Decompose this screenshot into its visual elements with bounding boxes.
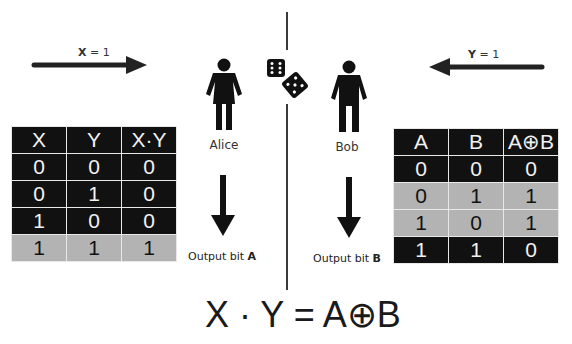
table-cell: 0 bbox=[122, 181, 177, 208]
equation-rhs: A⊕B bbox=[323, 294, 401, 335]
alice-label: Alice bbox=[194, 138, 254, 152]
table-cell: 0 bbox=[12, 181, 67, 208]
table-cell: 0 bbox=[394, 183, 449, 210]
table-header-row: A B A⊕B bbox=[394, 129, 559, 156]
table-cell: 0 bbox=[12, 154, 67, 181]
center-divider-top bbox=[286, 12, 288, 50]
table-cell: 0 bbox=[449, 156, 504, 183]
table-header-row: X Y X·Y bbox=[12, 127, 177, 154]
and-truth-table: X Y X·Y 0 0 0 0 1 0 1 0 0 1 1 1 bbox=[11, 126, 177, 262]
table-cell: 0 bbox=[67, 208, 122, 235]
header-cell: X bbox=[12, 127, 67, 154]
xor-truth-table: A B A⊕B 0 0 0 0 1 1 1 0 1 1 1 0 bbox=[393, 128, 559, 264]
output-bit-b-label: Output bit B bbox=[313, 252, 381, 265]
table-cell: 0 bbox=[449, 210, 504, 237]
output-bit-a-label: Output bit A bbox=[188, 250, 256, 263]
output-text: Output bit bbox=[313, 252, 373, 265]
table-row-highlight: 0 1 1 bbox=[394, 183, 559, 210]
bob-label: Bob bbox=[317, 140, 377, 154]
equation-equals: = bbox=[284, 294, 323, 335]
table-cell: 0 bbox=[67, 154, 122, 181]
table-cell: 1 bbox=[449, 183, 504, 210]
table-row: 0 1 0 bbox=[12, 181, 177, 208]
arrow-down-icon-bob bbox=[336, 177, 362, 239]
header-cell: B bbox=[449, 129, 504, 156]
arrow-right-icon bbox=[30, 54, 150, 76]
table-cell: 1 bbox=[67, 181, 122, 208]
table-cell: 1 bbox=[394, 237, 449, 264]
table-row-highlight: 1 1 1 bbox=[12, 235, 177, 262]
equation: X · Y = A⊕B bbox=[205, 294, 401, 336]
female-person-icon bbox=[204, 58, 244, 132]
table-cell: 1 bbox=[122, 235, 177, 262]
table-cell: 0 bbox=[122, 208, 177, 235]
table-cell: 1 bbox=[449, 237, 504, 264]
table-cell: 0 bbox=[504, 156, 559, 183]
table-cell: 1 bbox=[504, 183, 559, 210]
output-text: Output bit bbox=[188, 250, 248, 263]
output-bit: B bbox=[373, 252, 381, 265]
table-row: 0 0 0 bbox=[394, 156, 559, 183]
table-cell: 1 bbox=[394, 210, 449, 237]
header-cell: A bbox=[394, 129, 449, 156]
table-cell: 1 bbox=[12, 235, 67, 262]
table-cell: 0 bbox=[394, 156, 449, 183]
arrow-left-icon bbox=[427, 56, 547, 78]
table-row: 0 0 0 bbox=[12, 154, 177, 181]
table-cell: 0 bbox=[122, 154, 177, 181]
table-row: 1 1 0 bbox=[394, 237, 559, 264]
table-row: 1 0 0 bbox=[12, 208, 177, 235]
table-row-highlight: 1 0 1 bbox=[394, 210, 559, 237]
equation-lhs: X · Y bbox=[205, 294, 284, 335]
center-divider-bottom bbox=[286, 104, 288, 290]
header-cell: X·Y bbox=[122, 127, 177, 154]
table-cell: 1 bbox=[504, 210, 559, 237]
table-cell: 1 bbox=[12, 208, 67, 235]
output-bit: A bbox=[248, 250, 257, 263]
arrow-down-icon-alice bbox=[210, 175, 236, 237]
table-cell: 0 bbox=[504, 237, 559, 264]
dice-icon bbox=[266, 58, 312, 100]
male-person-icon bbox=[330, 60, 370, 134]
header-cell: A⊕B bbox=[504, 129, 559, 156]
table-cell: 1 bbox=[67, 235, 122, 262]
header-cell: Y bbox=[67, 127, 122, 154]
